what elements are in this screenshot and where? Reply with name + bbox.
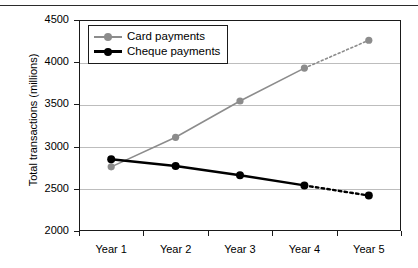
y-tick-label-2500: 2500 bbox=[0, 183, 69, 194]
legend-label-cheque-payments: Cheque payments bbox=[127, 45, 220, 58]
x-tick-label-year-4: Year 4 bbox=[269, 243, 339, 255]
x-tick-label-year-1: Year 1 bbox=[76, 243, 146, 255]
x-tick-mark-4 bbox=[337, 231, 338, 236]
x-tick-mark-0 bbox=[79, 231, 80, 236]
y-axis-labels: 450040003500300025002000 bbox=[0, 0, 74, 268]
chart-legend: Card payments Cheque payments bbox=[88, 25, 228, 64]
line-chart-figure: Total transactions (millions) 4500400035… bbox=[0, 0, 418, 268]
legend-marker-cheque bbox=[104, 48, 112, 56]
y-tick-label-2000: 2000 bbox=[0, 225, 69, 236]
legend-marker-card bbox=[104, 33, 112, 41]
y-tick-label-4000: 4000 bbox=[0, 56, 69, 67]
y-tick-label-3000: 3000 bbox=[0, 141, 69, 152]
x-tick-mark-1 bbox=[143, 231, 144, 236]
gridline-3000 bbox=[80, 147, 400, 148]
legend-label-card-payments: Card payments bbox=[127, 30, 205, 43]
y-tick-label-3500: 3500 bbox=[0, 98, 69, 109]
legend-item-card-payments: Card payments bbox=[94, 29, 220, 44]
legend-swatch-card-payments bbox=[94, 31, 122, 43]
x-tick-label-year-2: Year 2 bbox=[141, 243, 211, 255]
x-tick-mark-5 bbox=[401, 231, 402, 236]
x-tick-mark-2 bbox=[208, 231, 209, 236]
legend-item-cheque-payments: Cheque payments bbox=[94, 44, 220, 59]
legend-swatch-cheque-payments bbox=[94, 46, 122, 58]
gridline-3500 bbox=[80, 105, 400, 106]
x-tick-label-year-5: Year 5 bbox=[334, 243, 404, 255]
gridline-2500 bbox=[80, 189, 400, 190]
x-tick-mark-3 bbox=[272, 231, 273, 236]
x-tick-label-year-3: Year 3 bbox=[205, 243, 275, 255]
y-tick-label-4500: 4500 bbox=[0, 14, 69, 25]
